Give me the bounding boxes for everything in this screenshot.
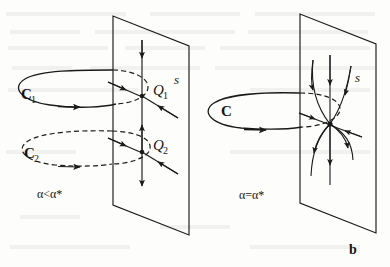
cycle-c1-direction-arrow — [58, 107, 80, 108]
q1-separatrix-in-right-arrow — [158, 106, 178, 118]
q2-separatrix-in-left-arrow — [108, 138, 126, 146]
cycle-c2-subscript: 2 — [34, 153, 39, 164]
panel-b-parameter-label: α=α* — [239, 188, 264, 202]
saddlenode-flow-upper-right-curve — [330, 66, 351, 124]
fixed-point-q2-subscript: 2 — [163, 145, 168, 156]
page-bleed-through — [6, 12, 375, 249]
section-plane-a-label: s — [174, 72, 179, 87]
figure-root: C 1 C 2 Q 1 Q 2 s α<α* — [0, 0, 390, 267]
section-plane-b-label: s — [355, 70, 360, 85]
saddlenode-flow-lower-left-arrow — [314, 124, 330, 153]
saddlenode-separatrix-in-left-arrow — [299, 113, 315, 119]
cycle-c-label: C — [221, 103, 232, 119]
saddlenode-separatrix-in-right-arrow — [345, 131, 362, 137]
panel-caption-b: b — [349, 242, 357, 257]
cycle-c-back — [300, 93, 340, 127]
panel-b: C s α=α* b — [208, 14, 376, 257]
fixed-point-q1-subscript: 1 — [163, 90, 168, 101]
panel-a-parameter-label: α<α* — [37, 187, 62, 201]
cycle-c-direction-arrow — [244, 130, 266, 131]
q2-separatrix-in-right-arrow — [158, 162, 178, 174]
cycle-c2-direction-arrow — [58, 167, 80, 168]
fixed-point-q1-marker — [140, 94, 145, 99]
fixed-point-q2-marker — [140, 150, 145, 155]
bifurcation-figure: C 1 C 2 Q 1 Q 2 s α<α* — [0, 0, 390, 267]
cycle-c1-subscript: 1 — [31, 94, 36, 105]
